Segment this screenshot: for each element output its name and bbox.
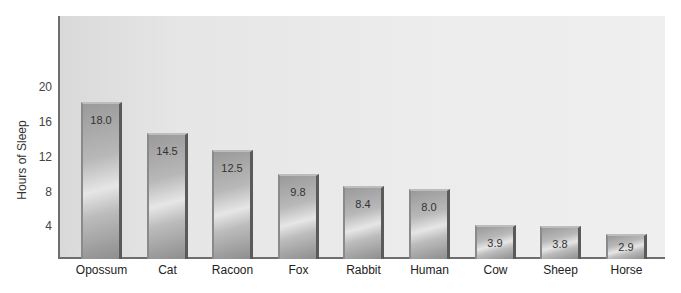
y-tick-12: 12: [22, 150, 52, 164]
bar-value-label: 18.0: [83, 114, 119, 126]
bar-rabbit: 8.4: [343, 186, 384, 259]
bar-sheep: 3.8: [540, 226, 581, 259]
x-category-label: Horse: [587, 263, 667, 277]
bar-fox: 9.8: [278, 174, 319, 259]
y-tick-20: 20: [22, 80, 52, 94]
bar-cow: 3.9: [475, 225, 516, 259]
bar-value-label: 8.0: [411, 201, 447, 213]
bar-value-label: 2.9: [608, 241, 644, 253]
y-tick-4: 4: [22, 219, 52, 233]
bar-value-label: 12.5: [214, 162, 250, 174]
y-tick-16: 16: [22, 115, 52, 129]
bar-human: 8.0: [409, 189, 450, 259]
bar-opossum: 18.0: [81, 102, 122, 259]
bar-value-label: 8.4: [345, 198, 381, 210]
bar-cat: 14.5: [147, 133, 188, 259]
bar-racoon: 12.5: [212, 150, 253, 259]
bar-horse: 2.9: [606, 234, 647, 259]
bar-value-label: 3.8: [542, 238, 578, 250]
bar-value-label: 3.9: [477, 237, 513, 249]
bar-value-label: 9.8: [280, 186, 316, 198]
bar-value-label: 14.5: [149, 145, 185, 157]
y-tick-8: 8: [22, 185, 52, 199]
